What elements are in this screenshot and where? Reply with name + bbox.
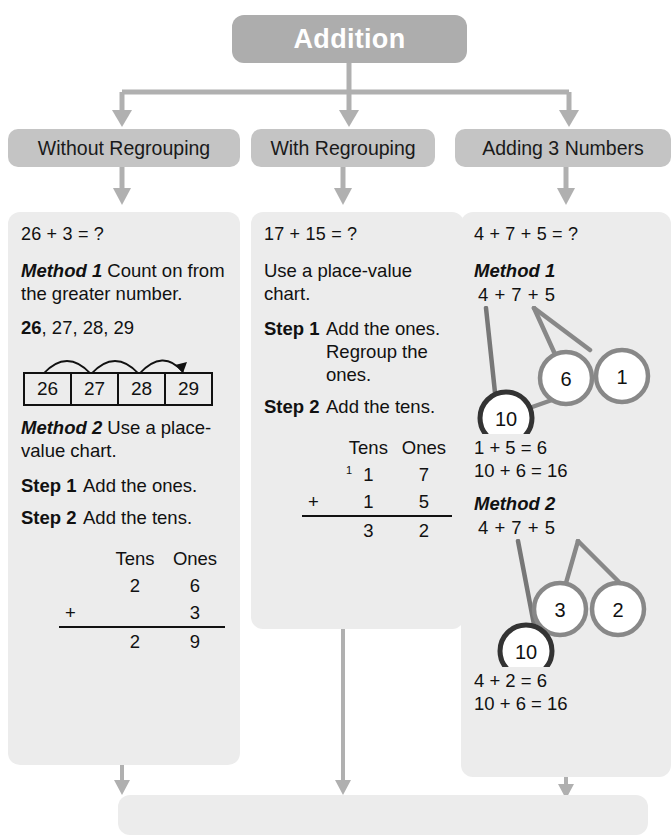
- plus-sign: +: [302, 488, 341, 516]
- table-row: + 1 5: [302, 488, 452, 516]
- ones-header: Ones: [165, 545, 225, 572]
- count-sequence-rest: , 27, 28, 29: [42, 317, 135, 338]
- method2-label: Method 2: [474, 493, 555, 514]
- sum-tens: 3: [341, 516, 396, 544]
- title-box: Addition: [232, 15, 467, 63]
- place-value-chart: Tens Ones 2 6 + 3 2 9: [21, 545, 228, 655]
- addend2-ones: 3: [165, 599, 225, 627]
- addend2-ones: 5: [396, 488, 452, 516]
- tens-header: Tens: [341, 434, 396, 461]
- method2-result1: 4 + 2 = 6: [474, 669, 659, 692]
- table-header-row: Tens Ones: [59, 545, 225, 572]
- table-row: 1 7: [302, 461, 452, 488]
- method2-label: Method 2: [21, 417, 102, 438]
- category-label: With Regrouping: [270, 137, 415, 160]
- number-cell: 27: [71, 373, 118, 405]
- category-label: Adding 3 Numbers: [482, 137, 644, 160]
- carry-digit: 1: [346, 465, 352, 476]
- addend2-tens: 1: [341, 488, 396, 516]
- table-row: + 3: [59, 599, 225, 627]
- method1-result1: 1 + 5 = 6: [474, 436, 659, 459]
- table-row: 2 6: [59, 572, 225, 599]
- table-row: 26 27 28 29: [24, 373, 212, 405]
- count-sequence-start: 26: [21, 317, 42, 338]
- number-line-figure: 26 27 28 29: [21, 348, 228, 404]
- ones-header: Ones: [396, 434, 452, 461]
- panel-adding-3-numbers: 4 + 7 + 5 = ? Method 1 4 + 7 + 5: [461, 212, 671, 777]
- method1-expression: 4 + 7 + 5: [478, 284, 659, 306]
- addend1-tens: 2: [105, 572, 165, 599]
- number-bond-method1: 6 1 10: [474, 306, 659, 434]
- place-value-chart: 1 Tens Ones 1 7 + 1 5: [264, 434, 452, 544]
- place-value-table: Tens Ones 1 7 + 1 5 3 2: [302, 434, 452, 544]
- bond-part-left-value: 3: [554, 599, 565, 621]
- step2-text: Add the tens.: [83, 506, 228, 529]
- bottom-panel-partial: [118, 795, 648, 835]
- category-with-regrouping[interactable]: With Regrouping: [251, 129, 435, 167]
- equation: 17 + 15 = ?: [264, 224, 452, 245]
- equation: 26 + 3 = ?: [21, 224, 228, 245]
- step1-text: Add the ones.: [83, 474, 228, 497]
- panel-with-regrouping: 17 + 15 = ? Use a place-value chart. Ste…: [251, 212, 464, 629]
- step1-row: Step 1 Add the ones.: [21, 474, 228, 497]
- place-value-table: Tens Ones 2 6 + 3 2 9: [59, 545, 225, 655]
- step1-label: Step 1: [21, 474, 83, 497]
- step2-row: Step 2 Add the tens.: [264, 395, 452, 418]
- bond-total-value: 10: [515, 641, 537, 663]
- step2-row: Step 2 Add the tens.: [21, 506, 228, 529]
- method1-description: Method 1 Count on from the greater numbe…: [21, 259, 228, 305]
- sum-ones: 9: [165, 627, 225, 655]
- step1-row: Step 1 Add the ones. Regroup the ones.: [264, 317, 452, 386]
- table-header-row: Tens Ones: [302, 434, 452, 461]
- equation: 4 + 7 + 5 = ?: [474, 224, 659, 245]
- number-bond-method2: 3 2 10: [474, 539, 659, 667]
- method2-expression: 4 + 7 + 5: [478, 517, 659, 539]
- number-bond-diagram-icon: 3 2 10: [474, 539, 662, 667]
- bond-part-left-value: 6: [560, 368, 571, 390]
- intro-text: Use a place-value chart.: [264, 259, 452, 305]
- addend2-tens: [105, 599, 165, 627]
- count-sequence: 26, 27, 28, 29: [21, 317, 228, 339]
- method2-heading: Method 2: [474, 492, 659, 515]
- method1-label: Method 1: [21, 260, 102, 281]
- table-sum-row: 3 2: [302, 516, 452, 544]
- method1-label: Method 1: [474, 260, 555, 281]
- bond-part-right-value: 1: [616, 366, 627, 388]
- bond-part-right-value: 2: [612, 599, 623, 621]
- method2-description: Method 2 Use a place-value chart.: [21, 416, 228, 462]
- sum-ones: 2: [396, 516, 452, 544]
- plus-sign: +: [59, 599, 105, 627]
- category-label: Without Regrouping: [38, 137, 210, 160]
- step2-label: Step 2: [21, 506, 83, 529]
- addend1-ones: 6: [165, 572, 225, 599]
- number-cell: 26: [24, 373, 71, 405]
- bond-total-value: 10: [495, 408, 517, 430]
- category-adding-3-numbers[interactable]: Adding 3 Numbers: [455, 129, 671, 167]
- panel-without-regrouping: 26 + 3 = ? Method 1 Count on from the gr…: [8, 212, 240, 765]
- addend1-ones: 7: [396, 461, 452, 488]
- number-line-table: 26 27 28 29: [23, 372, 213, 406]
- method1-result2: 10 + 6 = 16: [474, 459, 659, 482]
- step2-text: Add the tens.: [326, 395, 452, 418]
- step1-label: Step 1: [264, 317, 326, 386]
- sum-tens: 2: [105, 627, 165, 655]
- category-without-regrouping[interactable]: Without Regrouping: [8, 129, 240, 167]
- step2-label: Step 2: [264, 395, 326, 418]
- method1-heading: Method 1: [474, 259, 659, 282]
- table-sum-row: 2 9: [59, 627, 225, 655]
- number-cell: 28: [118, 373, 165, 405]
- number-bond-diagram-icon: 6 1 10: [474, 306, 662, 434]
- step1-text: Add the ones. Regroup the ones.: [326, 317, 452, 386]
- tens-header: Tens: [105, 545, 165, 572]
- method2-result2: 10 + 6 = 16: [474, 692, 659, 715]
- title-label: Addition: [294, 24, 406, 55]
- number-cell: 29: [165, 373, 212, 405]
